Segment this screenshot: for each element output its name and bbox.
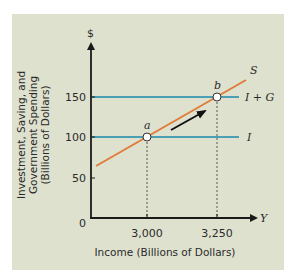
x-axis-label: Income (Billions of Dollars) — [95, 246, 236, 258]
chart-svg: a b S I + G I $ Y 150 100 50 0 3,000 3,2… — [0, 0, 290, 276]
y-tick-label-50: 50 — [72, 172, 86, 185]
point-a — [143, 133, 151, 141]
i-line-label: I — [246, 131, 252, 144]
y-tick-label-150: 150 — [65, 91, 86, 104]
point-b — [213, 93, 221, 101]
y-axis-label-line-2: Government Spending — [27, 76, 39, 194]
y-axis-label-line-1: Investment, Saving, and — [15, 71, 27, 199]
y-axis-label: Investment, Saving, and Government Spend… — [15, 71, 51, 199]
i-plus-g-line-label: I + G — [244, 91, 275, 104]
y-tick-label-100: 100 — [65, 131, 86, 144]
x-tick-label-3000: 3,000 — [131, 227, 163, 240]
y-axis-symbol: $ — [87, 27, 94, 40]
x-tick-label-3250: 3,250 — [201, 227, 233, 240]
saving-line — [96, 80, 246, 166]
point-a-label: a — [144, 119, 151, 132]
s-line-label: S — [250, 64, 258, 77]
x-axis-symbol: Y — [260, 212, 269, 225]
point-b-label: b — [214, 79, 221, 92]
y-tick-label-0: 0 — [79, 217, 86, 230]
y-axis-label-line-3: (Billions of Dollars) — [39, 86, 51, 185]
